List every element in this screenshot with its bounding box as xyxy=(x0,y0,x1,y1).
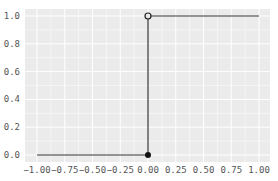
x-tick-label: −0.75 xyxy=(51,165,78,175)
y-axis-tick-labels: 0.00.20.40.60.81.0 xyxy=(4,11,20,160)
x-tick-label: −0.50 xyxy=(79,165,106,175)
step-function-chart: 0.00.20.40.60.81.0 −1.00−0.75−0.50−0.250… xyxy=(0,0,278,181)
x-tick-label: 0.25 xyxy=(165,165,187,175)
x-axis-tick-labels: −1.00−0.75−0.50−0.250.000.250.500.751.00 xyxy=(23,165,269,175)
open-point-marker xyxy=(145,13,151,19)
x-tick-label: 0.50 xyxy=(193,165,215,175)
y-tick-label: 0.6 xyxy=(4,67,20,77)
x-tick-label: 0.00 xyxy=(137,165,159,175)
x-tick-label: −1.00 xyxy=(23,165,50,175)
y-tick-label: 0.4 xyxy=(4,94,20,104)
y-tick-label: 0.0 xyxy=(4,150,20,160)
y-tick-label: 0.8 xyxy=(4,39,20,49)
y-tick-label: 0.2 xyxy=(4,122,20,132)
y-tick-label: 1.0 xyxy=(4,11,20,21)
chart-canvas: 0.00.20.40.60.81.0 −1.00−0.75−0.50−0.250… xyxy=(0,0,278,181)
x-tick-label: 1.00 xyxy=(248,165,270,175)
filled-point-marker xyxy=(145,152,151,158)
x-tick-label: 0.75 xyxy=(220,165,242,175)
x-tick-label: −0.25 xyxy=(107,165,134,175)
